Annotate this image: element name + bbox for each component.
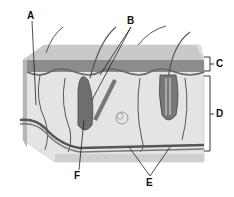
label-a: A	[27, 11, 34, 21]
hypodermis-layer	[55, 154, 204, 162]
bracket-c	[204, 57, 214, 71]
hair-strand	[138, 26, 166, 45]
hair-follicle-right	[159, 75, 178, 120]
block-side-face	[23, 60, 27, 148]
label-f: F	[74, 171, 80, 181]
label-c: C	[216, 59, 223, 69]
label-e: E	[146, 178, 153, 188]
label-b: B	[127, 16, 134, 26]
label-d: D	[216, 109, 223, 119]
skin-diagram	[0, 0, 234, 197]
bracket-d	[204, 76, 214, 151]
